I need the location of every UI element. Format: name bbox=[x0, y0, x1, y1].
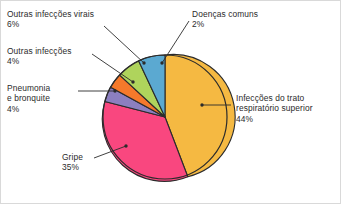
pie-label-text: Doenças comuns bbox=[192, 9, 258, 19]
pie-label-percent: 35% bbox=[62, 162, 83, 172]
pie-label-gripe: Gripe 35% bbox=[62, 152, 83, 173]
leader-dot-outras-infeccoes bbox=[131, 80, 134, 83]
pie-label-pneumonia-bronquite: Pneumonia e bronquite 4% bbox=[7, 83, 50, 114]
pie-label-text-line2: respiratório superior bbox=[236, 103, 313, 113]
pie-label-doencas-comuns: Doenças comuns 2% bbox=[192, 9, 258, 30]
leader-dot-outras-infeccoes-virais bbox=[142, 61, 145, 64]
pie-chart-figure: Outras infecções virais 6% Outras infecç… bbox=[0, 0, 341, 204]
pie-label-text-line2: e bronquite bbox=[7, 93, 50, 103]
pie-label-outras-infeccoes-virais: Outras infecções virais 6% bbox=[7, 9, 94, 30]
pie-label-percent: 6% bbox=[7, 19, 94, 29]
leader-line-outras-infeccoes-virais bbox=[104, 26, 144, 63]
pie-label-text: Pneumonia bbox=[7, 83, 50, 93]
leader-dot-trato-respiratorio-superior bbox=[200, 103, 203, 106]
leader-dot-pneumonia-bronquite bbox=[113, 89, 116, 92]
pie-label-text: Outras infecções virais bbox=[7, 9, 94, 19]
pie-label-outras-infeccoes: Outras infecções 4% bbox=[7, 46, 71, 67]
pie-label-text: Outras infecções bbox=[7, 46, 71, 56]
pie-label-percent: 4% bbox=[7, 104, 50, 114]
leader-dot-gripe bbox=[124, 144, 127, 147]
pie-label-percent: 4% bbox=[7, 56, 71, 66]
pie-label-trato-respiratorio-superior: Infecções do trato respiratório superior… bbox=[236, 93, 313, 124]
pie-label-percent: 44% bbox=[236, 114, 313, 124]
pie-label-percent: 2% bbox=[192, 19, 258, 29]
pie-label-text: Gripe bbox=[62, 152, 83, 162]
pie-label-text: Infecções do trato bbox=[236, 93, 304, 103]
leader-dot-doencas-comuns bbox=[160, 61, 163, 64]
